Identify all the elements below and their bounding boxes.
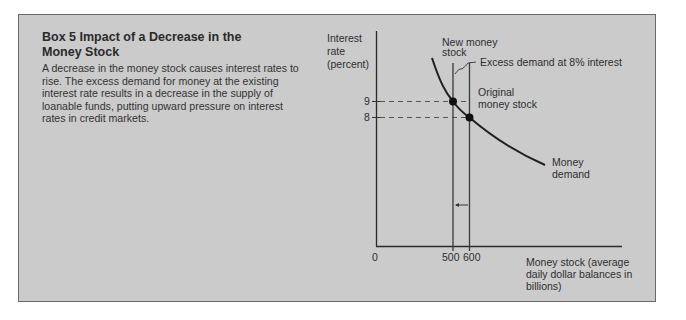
- left-arrow-icon: [455, 203, 459, 207]
- x-axis-label: Money stock (average daily dollar balanc…: [526, 256, 635, 292]
- y-tick-9: 9: [364, 95, 370, 107]
- excess-demand-bracket: [455, 63, 468, 74]
- new-money-stock-label: New money stock: [442, 36, 500, 58]
- x-tick-500: 500: [442, 251, 460, 263]
- y-tick-8: 8: [364, 111, 370, 123]
- new-equilibrium-dot: [449, 98, 457, 106]
- x-tick-600: 600: [463, 251, 481, 263]
- money-demand-label: Money demand: [552, 156, 590, 180]
- original-money-stock-label: Original money stock: [478, 86, 538, 110]
- money-demand-chart: Interest rate (percent) 9 8 0 500 600 Ne…: [0, 0, 686, 320]
- excess-demand-label: Excess demand at 8% interest: [480, 56, 622, 68]
- excess-demand-leader: [468, 62, 476, 63]
- money-demand-curve: [432, 58, 545, 165]
- x-tick-0: 0: [372, 251, 378, 263]
- original-equilibrium-dot: [466, 114, 474, 122]
- y-axis-label: Interest rate (percent): [327, 32, 369, 70]
